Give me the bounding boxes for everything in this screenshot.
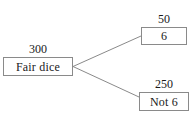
node-six-label: 6 (161, 30, 167, 42)
node-fair-dice: Fair dice (3, 57, 73, 76)
edge-root-to-six (73, 36, 141, 67)
tree-diagram-canvas: 300 Fair dice 50 6 250 Not 6 (0, 0, 192, 116)
node-not-six: Not 6 (139, 92, 189, 111)
branch-not-six-count-label: 250 (139, 78, 189, 90)
root-count-label: 300 (3, 43, 73, 55)
node-not-six-label: Not 6 (150, 96, 178, 108)
edge-root-to-not-six (73, 67, 139, 98)
node-fair-dice-label: Fair dice (16, 61, 60, 73)
branch-six-count-label: 50 (141, 13, 187, 25)
node-six: 6 (141, 27, 187, 45)
